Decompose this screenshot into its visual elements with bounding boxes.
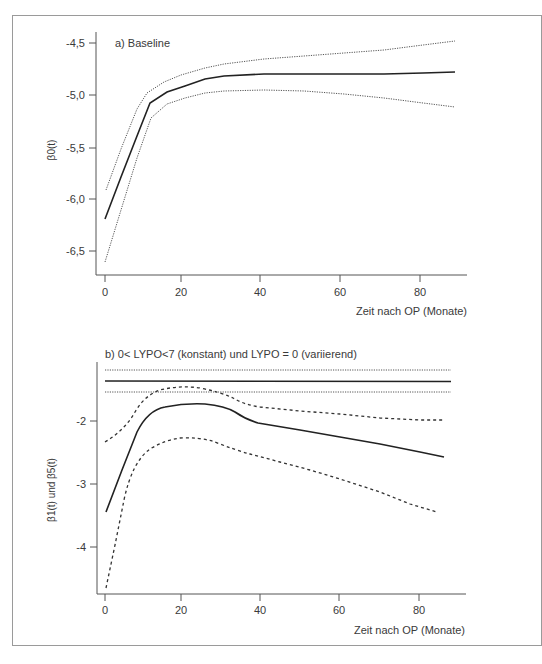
panel-b-yticks: -2 -3 -4 bbox=[76, 415, 97, 553]
panel-a: -4,5 -5,0 -5,5 -6,0 -6,5 0 20 40 60 80 Z… bbox=[46, 32, 467, 317]
panel-a-xlabel: Zeit nach OP (Monate) bbox=[356, 305, 467, 317]
panel-a-yticks: -4,5 -5,0 -5,5 -6,0 -6,5 bbox=[66, 37, 96, 257]
panel-a-upper-band bbox=[106, 41, 455, 190]
panel-b-ylabel: β1(t) und β5(t) bbox=[46, 458, 57, 522]
panel-b-xticks: 0 20 40 60 80 bbox=[102, 594, 425, 616]
ytick-label: -2 bbox=[76, 415, 86, 427]
ytick-label: -4 bbox=[76, 541, 86, 553]
xtick-label: 60 bbox=[334, 286, 346, 298]
panel-a-estimate-line bbox=[105, 72, 455, 219]
panel-b-varying-estimate-line bbox=[106, 404, 444, 512]
panel-b-title: b) 0< LYPO<7 (konstant) und LYPO = 0 (va… bbox=[105, 348, 357, 360]
panel-a-xticks: 0 20 40 60 80 bbox=[102, 275, 426, 298]
panel-b-xlabel: Zeit nach OP (Monate) bbox=[354, 624, 465, 636]
xtick-label: 40 bbox=[254, 604, 266, 616]
ytick-label: -4,5 bbox=[66, 37, 85, 49]
ytick-label: -5,0 bbox=[66, 89, 85, 101]
xtick-label: 80 bbox=[414, 286, 426, 298]
ytick-label: -5,5 bbox=[66, 142, 85, 154]
ytick-label: -3 bbox=[76, 478, 86, 490]
xtick-label: 0 bbox=[102, 604, 108, 616]
figure-caption-cropped bbox=[14, 652, 514, 664]
xtick-label: 20 bbox=[175, 286, 187, 298]
xtick-label: 40 bbox=[254, 286, 266, 298]
xtick-label: 80 bbox=[413, 604, 425, 616]
ytick-label: -6,5 bbox=[66, 245, 85, 257]
xtick-label: 0 bbox=[102, 286, 108, 298]
panel-b: b) 0< LYPO<7 (konstant) und LYPO = 0 (va… bbox=[46, 348, 466, 636]
panel-b-constant-estimate-line bbox=[105, 381, 451, 382]
xtick-label: 60 bbox=[333, 604, 345, 616]
xtick-label: 20 bbox=[175, 604, 187, 616]
ytick-label: -6,0 bbox=[66, 193, 85, 205]
panel-a-ylabel: β0(t) bbox=[46, 140, 57, 161]
panel-a-lower-band bbox=[105, 90, 455, 262]
panel-a-title: a) Baseline bbox=[115, 37, 170, 49]
panel-b-varying-lower-band bbox=[106, 438, 437, 588]
panel-b-varying-upper-band bbox=[105, 387, 443, 442]
